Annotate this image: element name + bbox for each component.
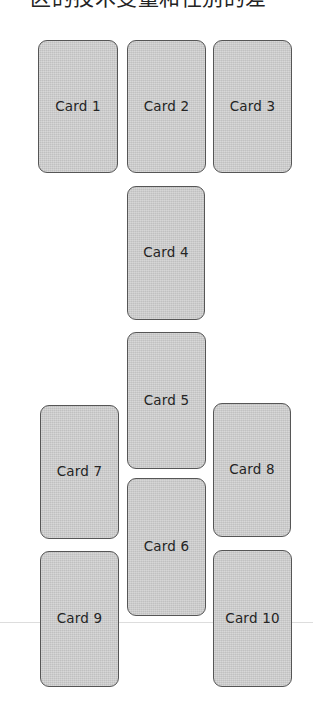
card-label: Card 4 [143, 246, 189, 260]
card-label: Card 6 [144, 540, 190, 554]
card-layout-canvas: 区的技术变量和性别的差 Card 1Card 2Card 3Card 4Card… [0, 0, 313, 722]
card-box[interactable]: Card 6 [127, 478, 206, 616]
card-label: Card 10 [225, 612, 279, 626]
card-box[interactable]: Card 7 [40, 405, 119, 539]
clipped-heading-text: 区的技术变量和性别的差 [0, 0, 313, 9]
card-box[interactable]: Card 4 [127, 186, 205, 320]
card-box[interactable]: Card 2 [127, 40, 206, 173]
card-label: Card 2 [144, 100, 190, 114]
card-label: Card 7 [57, 465, 103, 479]
card-box[interactable]: Card 5 [127, 332, 206, 469]
card-label: Card 9 [57, 612, 103, 626]
card-label: Card 3 [230, 100, 276, 114]
card-box[interactable]: Card 10 [213, 550, 292, 687]
card-box[interactable]: Card 9 [40, 551, 119, 687]
card-label: Card 5 [144, 394, 190, 408]
card-label: Card 1 [55, 100, 101, 114]
card-box[interactable]: Card 1 [38, 40, 118, 173]
card-box[interactable]: Card 8 [213, 403, 291, 537]
card-box[interactable]: Card 3 [213, 40, 292, 173]
card-label: Card 8 [229, 463, 275, 477]
